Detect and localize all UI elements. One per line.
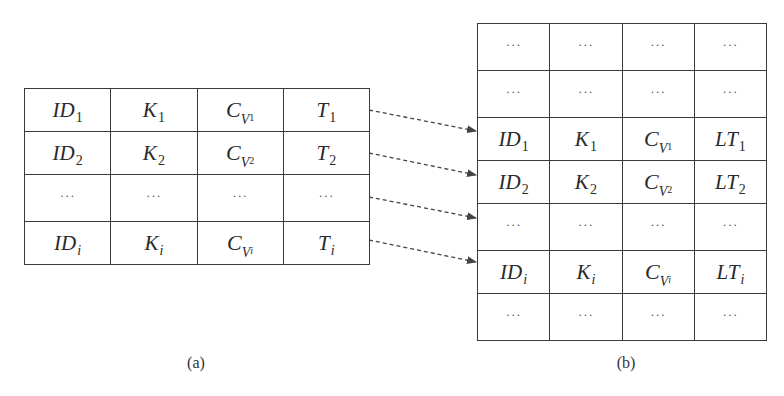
dashed-arrow-4 xyxy=(369,240,476,262)
caption-b: (b) xyxy=(617,354,636,372)
dashed-arrow-1 xyxy=(369,110,476,131)
caption-a: (a) xyxy=(187,354,205,372)
dashed-arrow-2 xyxy=(369,153,476,175)
mapping-arrows xyxy=(0,0,784,396)
dashed-arrow-3 xyxy=(369,197,476,218)
